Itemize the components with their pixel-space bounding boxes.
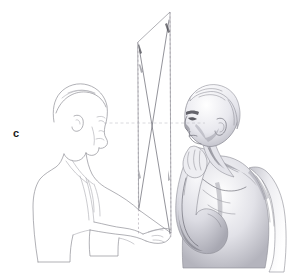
artist-torso — [33, 153, 140, 262]
artist-arm-and-hand — [89, 222, 171, 256]
diagonal-b — [139, 20, 169, 208]
artist-outline-figure — [33, 84, 171, 262]
diagonal-a — [140, 50, 171, 234]
picture-plane-quadrilateral — [138, 12, 171, 233]
model-shaded-figure — [176, 85, 286, 272]
illustration-svg — [0, 0, 289, 278]
artist-head — [53, 84, 107, 161]
figure-panel-label: c — [13, 127, 19, 139]
model-head — [185, 85, 240, 147]
illustration-canvas: c — [0, 0, 289, 278]
